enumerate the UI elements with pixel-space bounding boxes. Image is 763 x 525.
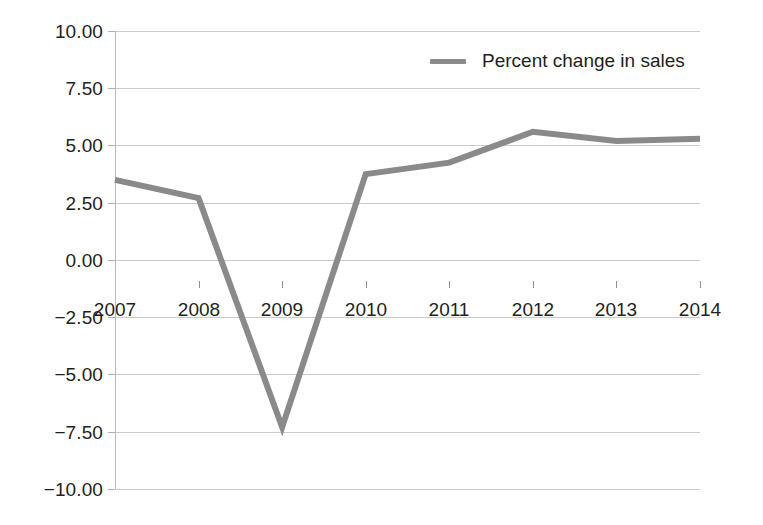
y-tick-label-2-5: 2.50	[3, 194, 103, 213]
y-tick-mark	[108, 260, 115, 261]
gridline	[115, 374, 700, 375]
gridline	[115, 489, 700, 490]
x-tick-label-2014: 2014	[655, 299, 745, 321]
x-tick-mark	[366, 281, 367, 288]
chart-figure: 2007 2008 2009 2010 2011 2012 2013 2014 …	[0, 0, 763, 525]
x-tick-mark	[199, 281, 200, 288]
y-tick-label-10: 10.00	[3, 22, 103, 41]
y-tick-label-neg-10: −10.00	[3, 480, 103, 499]
y-tick-mark	[108, 374, 115, 375]
gridline	[115, 145, 700, 146]
x-tick-mark	[533, 281, 534, 288]
x-tick-mark	[282, 281, 283, 288]
y-tick-label-neg-5: −5.00	[3, 365, 103, 384]
y-tick-mark	[108, 88, 115, 89]
gridline	[115, 260, 700, 261]
y-tick-label-7-5: 7.50	[3, 79, 103, 98]
gridline	[115, 203, 700, 204]
x-tick-label-2011: 2011	[404, 299, 494, 321]
gridline	[115, 88, 700, 89]
y-tick-label-0: 0.00	[3, 251, 103, 270]
x-tick-mark	[616, 281, 617, 288]
y-tick-mark	[108, 489, 115, 490]
y-tick-mark	[108, 145, 115, 146]
y-tick-mark	[108, 31, 115, 32]
y-axis-spine	[115, 31, 116, 489]
x-tick-label-2012: 2012	[488, 299, 578, 321]
gridline	[115, 432, 700, 433]
legend-line-swatch	[430, 59, 466, 64]
x-tick-mark	[700, 281, 701, 288]
legend-label-percent-change-in-sales: Percent change in sales	[482, 50, 685, 72]
x-tick-label-2013: 2013	[571, 299, 661, 321]
x-tick-label-2010: 2010	[321, 299, 411, 321]
gridline	[115, 31, 700, 32]
y-tick-label-5: 5.00	[3, 136, 103, 155]
y-tick-label-neg-7-5: −7.50	[3, 423, 103, 442]
y-tick-mark	[108, 203, 115, 204]
plot-area: 2007 2008 2009 2010 2011 2012 2013 2014	[115, 31, 700, 489]
x-tick-label-2008: 2008	[154, 299, 244, 321]
y-tick-label-neg-2-5: −2.50	[3, 308, 103, 327]
chart-legend: Percent change in sales	[430, 50, 685, 72]
x-tick-label-2009: 2009	[237, 299, 327, 321]
x-tick-mark	[449, 281, 450, 288]
y-tick-mark	[108, 317, 115, 318]
y-tick-mark	[108, 432, 115, 433]
